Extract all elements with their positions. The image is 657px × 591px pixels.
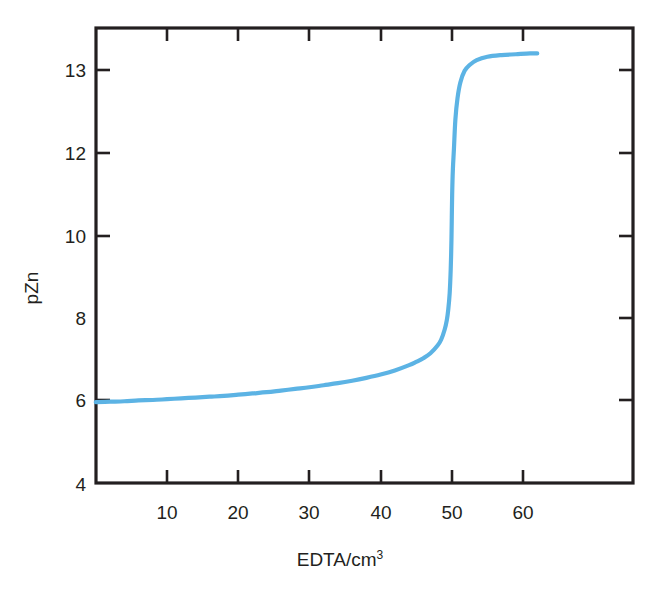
- x-tick-label-60: 60: [512, 502, 533, 523]
- x-axis-ticks-bottom: [167, 470, 523, 483]
- y-axis-ticks-right: [619, 70, 633, 400]
- y-tick-label-6: 6: [75, 390, 86, 411]
- x-tick-label-30: 30: [298, 502, 319, 523]
- y-tick-label-12: 12: [65, 143, 86, 164]
- y-tick-label-10: 10: [65, 226, 86, 247]
- x-axis-ticks-top: [167, 28, 523, 41]
- chart-canvas: 13 12 10 8 6 4 10 20 30 40 50 60 pZn EDT…: [0, 0, 657, 591]
- x-axis-title-superscript: 3: [377, 548, 384, 562]
- titration-curve: [96, 53, 537, 402]
- y-tick-label-4: 4: [75, 474, 86, 495]
- y-tick-label-8: 8: [75, 308, 86, 329]
- x-tick-label-40: 40: [370, 502, 391, 523]
- y-tick-label-13: 13: [65, 60, 86, 81]
- x-tick-label-50: 50: [441, 502, 462, 523]
- x-axis-title: EDTA/cm3: [297, 548, 384, 570]
- chart-figure: 13 12 10 8 6 4 10 20 30 40 50 60 pZn EDT…: [0, 0, 657, 591]
- x-tick-label-20: 20: [227, 502, 248, 523]
- x-axis-title-base: EDTA/cm: [297, 549, 377, 570]
- x-tick-label-10: 10: [156, 502, 177, 523]
- y-axis-title: pZn: [21, 272, 42, 305]
- y-axis-ticks-left: [96, 70, 110, 400]
- plot-frame: [96, 28, 633, 483]
